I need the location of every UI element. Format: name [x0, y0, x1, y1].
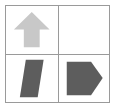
shape-grid-canvas: [0, 0, 116, 109]
grid-cell-top-left[interactable]: [6, 6, 58, 54]
empty-shape-placeholder: [59, 6, 110, 54]
pentagon-arrow-icon: [59, 55, 110, 102]
grid-cell-bottom-left[interactable]: [6, 54, 58, 102]
shape-grid: [5, 5, 110, 103]
parallelogram-icon: [6, 55, 58, 102]
grid-cell-bottom-right[interactable]: [58, 54, 110, 102]
grid-cell-top-right[interactable]: [58, 6, 110, 54]
up-arrow-icon: [6, 6, 58, 54]
